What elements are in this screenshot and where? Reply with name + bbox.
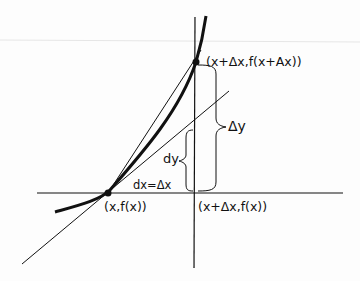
point-x-dx-fxdx (193, 59, 200, 66)
label-delta-y: Δy (228, 119, 246, 133)
label-dx-eq-delta-x: dx=Δx (133, 180, 171, 192)
label-lower-point: (x,f(x)) (104, 201, 147, 214)
function-curve (55, 16, 206, 212)
vertical-line (194, 17, 195, 268)
delta-y-brace (198, 65, 226, 191)
tangent-line (22, 91, 229, 264)
scan-artifact-line (0, 40, 360, 42)
diagram-svg (0, 0, 360, 281)
label-upper-point: (x+Δx,f(x+Ax)) (206, 56, 302, 69)
point-x-fx (105, 190, 112, 197)
secant-line (108, 50, 201, 193)
diagram-canvas: (x+Δx,f(x+Ax)) Δy dy dx=Δx (x,f(x)) (x+Δ… (0, 0, 360, 281)
dy-brace (179, 130, 193, 191)
label-dy: dy (163, 152, 179, 165)
label-corner-point: (x+Δx,f(x)) (198, 201, 267, 214)
